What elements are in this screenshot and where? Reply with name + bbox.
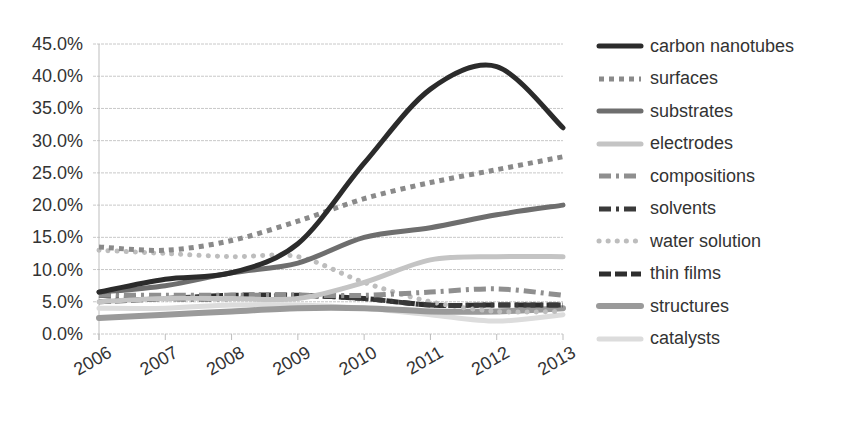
legend-item-substrates: substrates [596,95,794,128]
plot-lines [99,65,563,321]
legend-swatch-icon [596,332,644,346]
legend-swatch-icon [596,137,644,151]
legend-label: electrodes [650,133,733,154]
legend-item-water-solution: water solution [596,225,794,258]
legend-swatch-icon [596,39,644,53]
legend-label: compositions [650,166,755,187]
legend-item-thin-films: thin films [596,258,794,291]
y-tick-label: 30.0% [32,131,83,151]
y-tick-label: 10.0% [32,260,83,280]
legend-swatch-icon [596,72,644,86]
legend-item-compositions: compositions [596,160,794,193]
legend-item-surfaces: surfaces [596,63,794,96]
x-tick-label: 2012 [468,342,513,379]
y-tick-label: 15.0% [32,227,83,247]
legend-label: surfaces [650,68,718,89]
legend-swatch-icon [596,267,644,281]
x-tick-label: 2006 [70,342,115,379]
legend-item-solvents: solvents [596,193,794,226]
legend-item-structures: structures [596,290,794,323]
legend-label: substrates [650,101,733,122]
x-axis-ticks: 20062007200820092010201120122013 [70,342,579,379]
y-axis-ticks: 0.0%5.0%10.0%15.0%20.0%25.0%30.0%35.0%40… [32,34,83,344]
x-tick-label: 2007 [137,342,182,379]
legend-swatch-icon [596,234,644,248]
legend-swatch-icon [596,299,644,313]
x-tick-label: 2009 [269,342,314,379]
y-tick-label: 5.0% [42,292,83,312]
y-tick-label: 40.0% [32,66,83,86]
legend-label: carbon nanotubes [650,36,794,57]
y-tick-label: 20.0% [32,195,83,215]
y-tick-label: 45.0% [32,34,83,54]
x-tick-label: 2011 [403,342,447,379]
legend-label: thin films [650,263,721,284]
legend-label: water solution [650,231,761,252]
x-tick-label: 2013 [534,342,579,379]
x-tick-label: 2008 [203,342,248,379]
y-tick-label: 0.0% [42,324,83,344]
legend-label: structures [650,296,729,317]
legend-item-electrodes: electrodes [596,128,794,161]
legend: carbon nanotubessurfacessubstrateselectr… [596,30,794,355]
legend-label: catalysts [650,328,720,349]
legend-swatch-icon [596,202,644,216]
legend-swatch-icon [596,104,644,118]
legend-label: solvents [650,198,716,219]
legend-item-carbon-nanotubes: carbon nanotubes [596,30,794,63]
y-tick-label: 35.0% [32,98,83,118]
y-tick-label: 25.0% [32,163,83,183]
x-tick-label: 2010 [335,342,380,379]
legend-item-catalysts: catalysts [596,323,794,356]
legend-swatch-icon [596,169,644,183]
